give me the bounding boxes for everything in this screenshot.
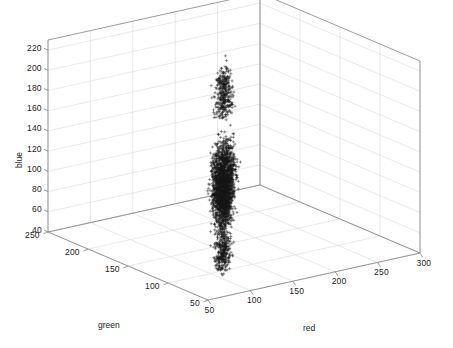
floor-grid-y [168,236,380,283]
green-tick-label: 100 [145,281,160,291]
blue-tick-label: 80 [32,184,42,194]
scatter-markers [206,54,242,276]
blue-tick-label: 220 [27,43,42,53]
tick-blue [44,109,48,111]
green-tick-label: 150 [105,264,120,274]
green-axis-name: green [98,320,120,330]
blue-tick-label: 160 [27,103,42,113]
tick-blue [44,89,48,91]
green-tick-label: 50 [190,298,200,308]
tick-blue [44,190,48,192]
floor-grid-y [88,202,300,249]
tick-blue [44,210,48,212]
tick-green [84,249,89,251]
tick-blue [44,129,48,131]
axis-edge-top-back-left [48,0,260,40]
wall-left-grid-z [48,3,260,50]
blue-axis-name: blue [14,152,24,168]
blue-tick-label: 180 [27,83,42,93]
green-tick-label: 200 [65,247,80,257]
blue-tick-label: 140 [27,123,42,133]
blue-tick-label: 200 [27,63,42,73]
plot-canvas [0,0,453,348]
tick-blue [44,170,48,172]
red-tick-label: 100 [247,295,262,305]
tick-blue [44,149,48,151]
tick-green [164,283,169,285]
tick-blue [44,230,48,232]
red-tick-label: 200 [332,276,347,286]
red-tick-label: 150 [289,286,304,296]
blue-tick-label: 120 [27,144,42,154]
red-tick-label: 50 [205,305,215,315]
blue-tick-label: 60 [32,204,42,214]
tick-blue [44,69,48,71]
wall-left-grid-z [48,23,260,70]
floor-grid-y [128,219,340,266]
green-tick-label: 250 [25,230,40,240]
scatter3d-figure: 4060801001201401601802002205010015020025… [0,0,453,348]
tick-green [204,300,209,302]
red-axis-name: red [303,323,315,333]
data-point-group [206,54,242,276]
red-tick-label: 250 [374,267,389,277]
tick-green [124,266,129,268]
red-tick-label: 300 [417,258,432,268]
blue-tick-label: 100 [27,164,42,174]
tick-green [44,232,49,234]
tick-blue [44,48,48,50]
